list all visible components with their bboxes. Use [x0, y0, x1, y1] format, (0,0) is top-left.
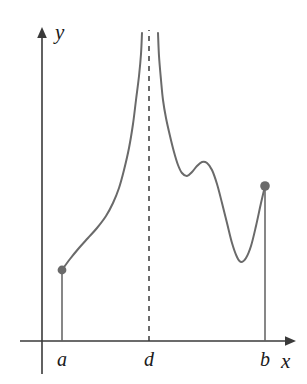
y-axis: [37, 27, 47, 374]
function-graph-figure: y x a d b: [0, 0, 307, 384]
tick-label-a: a: [53, 349, 71, 369]
x-axis-label: x: [281, 351, 290, 372]
x-axis-arrowhead: [285, 336, 296, 346]
curve-branch-right: [158, 33, 265, 262]
tick-label-d: d: [140, 349, 158, 369]
tick-label-b: b: [256, 349, 274, 369]
y-axis-label: y: [55, 22, 64, 43]
endpoint-dot-a: [58, 266, 67, 275]
graph-canvas: [0, 0, 307, 384]
y-axis-arrowhead: [37, 27, 47, 38]
endpoint-dot-b: [260, 181, 270, 191]
curve-branch-left: [62, 33, 142, 270]
